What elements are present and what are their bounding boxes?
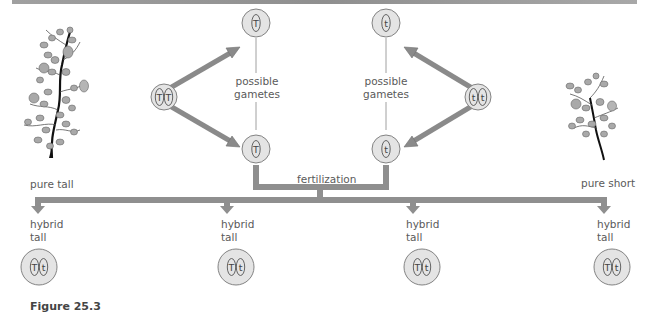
- allele-label: t: [481, 92, 485, 103]
- offspring-1-line2: tall: [30, 231, 63, 244]
- allele-label: t: [425, 262, 429, 273]
- offspring-label-4: hybrid tall: [597, 218, 630, 244]
- arrow-tt-to-gamete-upper: [170, 47, 240, 88]
- offspring-2-line2: tall: [221, 231, 254, 244]
- offspring-3-line1: hybrid: [406, 218, 439, 231]
- allele-label: t: [42, 262, 46, 273]
- allele-label: t: [615, 262, 619, 273]
- gamete-cell-left-upper: T: [242, 9, 270, 37]
- offspring-cell-2: Tt: [218, 249, 254, 285]
- offspring-label-3: hybrid tall: [406, 218, 439, 244]
- arrow-tt-to-gamete-upper-right: [404, 47, 472, 88]
- arrow-tt-to-gamete-lower-right: [404, 106, 472, 147]
- allele-label: T: [156, 92, 163, 103]
- parent-cell-tall: TT: [151, 84, 177, 110]
- pure-tall-label: pure tall: [30, 178, 74, 191]
- allele-label: T: [414, 262, 421, 273]
- gametes-label-left-line1: possible: [231, 75, 283, 88]
- allele-label: T: [228, 262, 235, 273]
- gametes-label-right: possible gametes: [360, 75, 412, 101]
- gamete-cell-left-lower: T: [242, 135, 270, 163]
- offspring-3-line2: tall: [406, 231, 439, 244]
- arrow-tt-to-gamete-lower: [170, 106, 240, 147]
- gametes-label-right-line2: gametes: [360, 88, 412, 101]
- allele-label: t: [239, 262, 243, 273]
- gametes-label-left-line2: gametes: [231, 88, 283, 101]
- allele-label: T: [165, 92, 172, 103]
- figure-caption: Figure 25.3: [30, 300, 101, 313]
- offspring-2-line1: hybrid: [221, 218, 254, 231]
- offspring-1-line1: hybrid: [30, 218, 63, 231]
- offspring-4-line2: tall: [597, 231, 630, 244]
- allele-label: T: [604, 262, 611, 273]
- gametes-label-right-line1: possible: [360, 75, 412, 88]
- gametes-label-left: possible gametes: [231, 75, 283, 101]
- top-rule: [12, 0, 637, 4]
- cells-layer: TTttTTttTtTtTtTt: [21, 9, 630, 285]
- offspring-distribution-bar: [35, 197, 607, 203]
- offspring-cell-3: Tt: [404, 249, 440, 285]
- gamete-cell-right-lower: t: [372, 135, 400, 163]
- pure-short-label: pure short: [581, 177, 635, 190]
- offspring-label-1: hybrid tall: [30, 218, 63, 244]
- offspring-label-2: hybrid tall: [221, 218, 254, 244]
- short-plant-illustration: [566, 73, 618, 160]
- allele-label: t: [384, 18, 388, 29]
- allele-label: T: [252, 18, 259, 29]
- allele-label: t: [384, 144, 388, 155]
- allele-label: t: [472, 92, 476, 103]
- fertilization-label: fertilization: [297, 173, 356, 186]
- offspring-4-line1: hybrid: [597, 218, 630, 231]
- parent-to-gamete-arrows: [170, 47, 472, 147]
- allele-label: T: [31, 262, 38, 273]
- tall-plant-illustration: [24, 27, 89, 158]
- allele-label: T: [252, 144, 259, 155]
- offspring-cell-4: Tt: [594, 249, 630, 285]
- gamete-cell-right-upper: t: [372, 9, 400, 37]
- parent-cell-short: tt: [465, 84, 491, 110]
- offspring-cell-1: Tt: [21, 249, 57, 285]
